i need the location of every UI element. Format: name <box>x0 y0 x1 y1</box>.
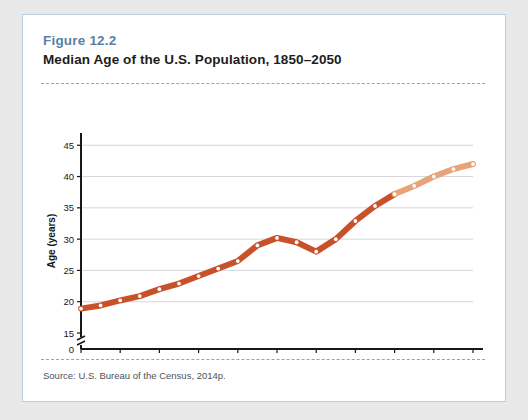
median-age-line-chart: 015202530354045 185018701890191019301950… <box>41 93 487 355</box>
data-point-marker <box>99 304 103 308</box>
chart-plot-area: 015202530354045 185018701890191019301950… <box>41 93 487 355</box>
axis-break-symbol <box>77 336 85 345</box>
y-tick-label: 25 <box>63 265 74 276</box>
data-point-marker <box>452 167 456 171</box>
data-point-marker <box>236 259 240 263</box>
divider-top <box>41 83 485 84</box>
data-point-marker <box>471 162 475 166</box>
y-tick-label: 45 <box>63 140 74 151</box>
data-point-marker <box>216 267 220 271</box>
data-point-marker <box>334 237 338 241</box>
x-axis: 1850187018901910193019501970199020102030… <box>70 349 483 355</box>
y-tick-label: 40 <box>63 171 74 182</box>
series-line <box>395 164 473 194</box>
divider-bottom <box>41 359 485 360</box>
figure-card: Figure 12.2 Median Age of the U.S. Popul… <box>22 14 506 402</box>
data-point-marker <box>393 192 397 196</box>
data-point-marker <box>412 184 416 188</box>
data-point-marker <box>354 219 358 223</box>
data-point-marker <box>373 204 377 208</box>
data-point-marker <box>177 282 181 286</box>
data-point-marker <box>197 274 201 278</box>
source-note: Source: U.S. Bureau of the Census, 2014p… <box>43 370 226 381</box>
gridlines <box>81 145 473 301</box>
y-axis-title: Age (years) <box>46 214 57 268</box>
figure-title: Median Age of the U.S. Population, 1850–… <box>43 52 342 67</box>
y-tick-label: 20 <box>63 296 74 307</box>
data-point-marker <box>118 299 122 303</box>
figure-number: Figure 12.2 <box>43 33 116 48</box>
y-tick-label: 35 <box>63 202 74 213</box>
y-tick-label: 15 <box>63 328 74 339</box>
data-point-marker <box>79 307 83 311</box>
y-tick-label: 30 <box>63 234 74 245</box>
data-point-marker <box>432 175 436 179</box>
data-point-marker <box>314 250 318 254</box>
data-point-marker <box>295 240 299 244</box>
y-tick-label: 0 <box>69 344 74 355</box>
data-point-marker <box>256 243 260 247</box>
data-point-marker <box>158 287 162 291</box>
series-line <box>81 194 395 309</box>
data-point-marker <box>275 236 279 240</box>
y-axis: 015202530354045 <box>63 133 85 355</box>
data-point-marker <box>138 294 142 298</box>
